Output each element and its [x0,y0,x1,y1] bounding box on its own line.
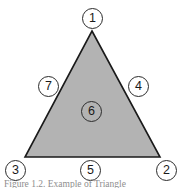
marker-2-label: 2 [163,163,170,177]
marker-4-label: 4 [135,79,142,93]
marker-6-label: 6 [88,104,95,118]
marker-1-label: 1 [89,11,96,25]
marker-4[interactable]: 4 [128,76,149,97]
marker-3[interactable]: 3 [5,160,26,181]
figure-container: 1 2 3 4 5 6 7 Figure 1.2. Example of Tri… [0,0,182,188]
marker-5[interactable]: 5 [80,160,101,181]
marker-1[interactable]: 1 [82,8,103,29]
marker-7[interactable]: 7 [38,76,59,97]
marker-6[interactable]: 6 [81,101,102,122]
figure-caption: Figure 1.2. Example of Triangle [4,179,178,188]
marker-3-label: 3 [12,163,19,177]
marker-2[interactable]: 2 [156,160,177,181]
marker-5-label: 5 [87,163,94,177]
marker-7-label: 7 [45,79,52,93]
